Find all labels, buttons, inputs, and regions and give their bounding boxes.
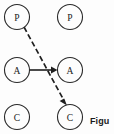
state-transition-diagram: P P A A C C [0,0,114,134]
node-a-left[interactable]: A [5,58,30,83]
node-a-left-label: A [14,66,21,76]
edge-a-to-a-arrowhead [51,67,58,74]
edge-a-to-a [30,67,58,74]
node-c-right-label: C [67,113,73,123]
figure-container: P P A A C C Figu [0,0,114,134]
node-c-left-label: C [14,113,20,123]
node-p-left-label: P [14,13,19,23]
figure-caption: Figu [90,116,109,126]
node-a-right-label: A [67,66,74,76]
node-c-left[interactable]: C [5,105,30,130]
node-a-right[interactable]: A [58,58,83,83]
edge-p-to-c-arrowhead [60,98,67,105]
node-p-right-label: P [67,13,72,23]
node-c-right[interactable]: C [58,105,83,130]
node-p-left[interactable]: P [5,5,30,30]
node-p-right[interactable]: P [58,5,83,30]
